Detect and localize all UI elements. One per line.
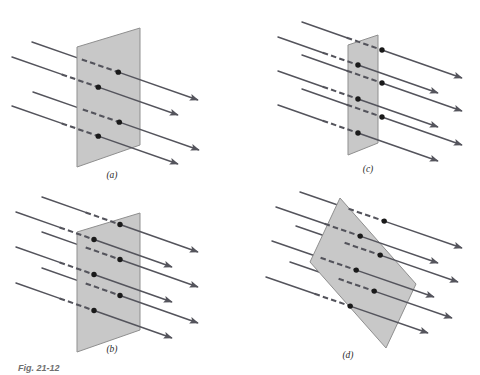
field-line-intersection-dot: [379, 114, 384, 119]
field-line-intersection-dot: [379, 80, 384, 85]
panel-d-label: (d): [342, 350, 353, 361]
panel-a-surface: [77, 28, 140, 167]
field-line-intersection-dot: [91, 272, 96, 277]
field-line-intersection-dot: [96, 133, 101, 138]
field-line-intersection-dot: [91, 308, 96, 313]
field-line-intersection-dot: [116, 69, 121, 74]
field-line-intersection-dot: [378, 252, 383, 257]
field-line-intersection-dot: [355, 130, 360, 135]
figure-caption: Fig. 21-12: [18, 363, 60, 373]
panel-b-label: (b): [106, 344, 117, 355]
field-line-intersection-dot: [355, 96, 360, 101]
field-line-intersection-dot: [348, 303, 353, 308]
field-line-intersection-dot: [96, 84, 101, 89]
field-line-intersection-dot: [117, 119, 122, 124]
field-line-intersection-dot: [379, 47, 384, 52]
panel-a-label: (a): [106, 170, 117, 181]
field-line-intersection-dot: [355, 62, 360, 67]
field-line-intersection-dot: [117, 257, 122, 262]
physics-figure: (a)(b)(c)(d) Fig. 21-12: [0, 0, 480, 375]
field-line-intersection-dot: [382, 218, 387, 223]
field-line-intersection-dot: [358, 233, 363, 238]
field-line-intersection-dot: [91, 237, 96, 242]
figure-canvas: (a)(b)(c)(d) Fig. 21-12: [0, 0, 480, 375]
field-line-intersection-dot: [354, 267, 359, 272]
field-line-intersection-dot: [372, 288, 377, 293]
panel-b-surface: [77, 213, 140, 352]
panel-c-surface: [348, 35, 378, 155]
field-line-intersection-dot: [117, 293, 122, 298]
field-line-intersection-dot: [117, 222, 122, 227]
panel-c-label: (c): [363, 164, 374, 175]
